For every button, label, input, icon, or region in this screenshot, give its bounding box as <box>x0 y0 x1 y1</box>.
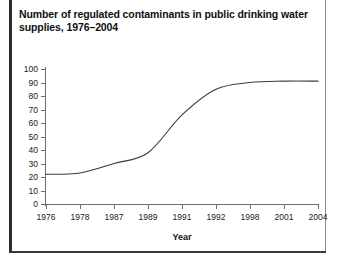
y-tick-label: 100 <box>24 64 38 74</box>
x-tick-label: 2001 <box>275 212 294 222</box>
x-tick-label: 1991 <box>173 212 192 222</box>
y-tick-label: 10 <box>29 186 38 196</box>
x-tick <box>80 204 81 209</box>
x-tick <box>250 204 251 209</box>
x-tick <box>46 204 47 209</box>
x-tick-label: 1976 <box>37 212 56 222</box>
plot-area: 0102030405060708090100 19761978198719891… <box>46 69 318 204</box>
y-tick-label: 20 <box>29 172 38 182</box>
y-tick-label: 90 <box>29 78 38 88</box>
x-tick <box>182 204 183 209</box>
x-tick <box>148 204 149 209</box>
x-tick-label: 1987 <box>105 212 124 222</box>
x-tick <box>114 204 115 209</box>
y-tick-label: 80 <box>29 91 38 101</box>
chart-screenshot: Number of regulated contaminants in publ… <box>0 0 338 253</box>
x-tick-label: 1998 <box>241 212 260 222</box>
chart-title: Number of regulated contaminants in publ… <box>19 8 309 34</box>
series-line-contaminants <box>46 69 318 204</box>
x-tick-label: 2004 <box>309 212 328 222</box>
x-tick-label: 1978 <box>71 212 90 222</box>
x-tick <box>216 204 217 209</box>
y-tick-label: 30 <box>29 159 38 169</box>
y-tick-label: 0 <box>33 199 38 209</box>
x-axis-title: Year <box>46 232 318 242</box>
x-tick-label: 1989 <box>139 212 158 222</box>
y-tick-label: 60 <box>29 118 38 128</box>
y-tick-label: 40 <box>29 145 38 155</box>
y-tick-label: 50 <box>29 132 38 142</box>
x-tick <box>318 204 319 209</box>
x-tick <box>284 204 285 209</box>
x-tick-label: 1992 <box>207 212 226 222</box>
y-tick-label: 70 <box>29 105 38 115</box>
frame-left-border <box>9 0 12 253</box>
